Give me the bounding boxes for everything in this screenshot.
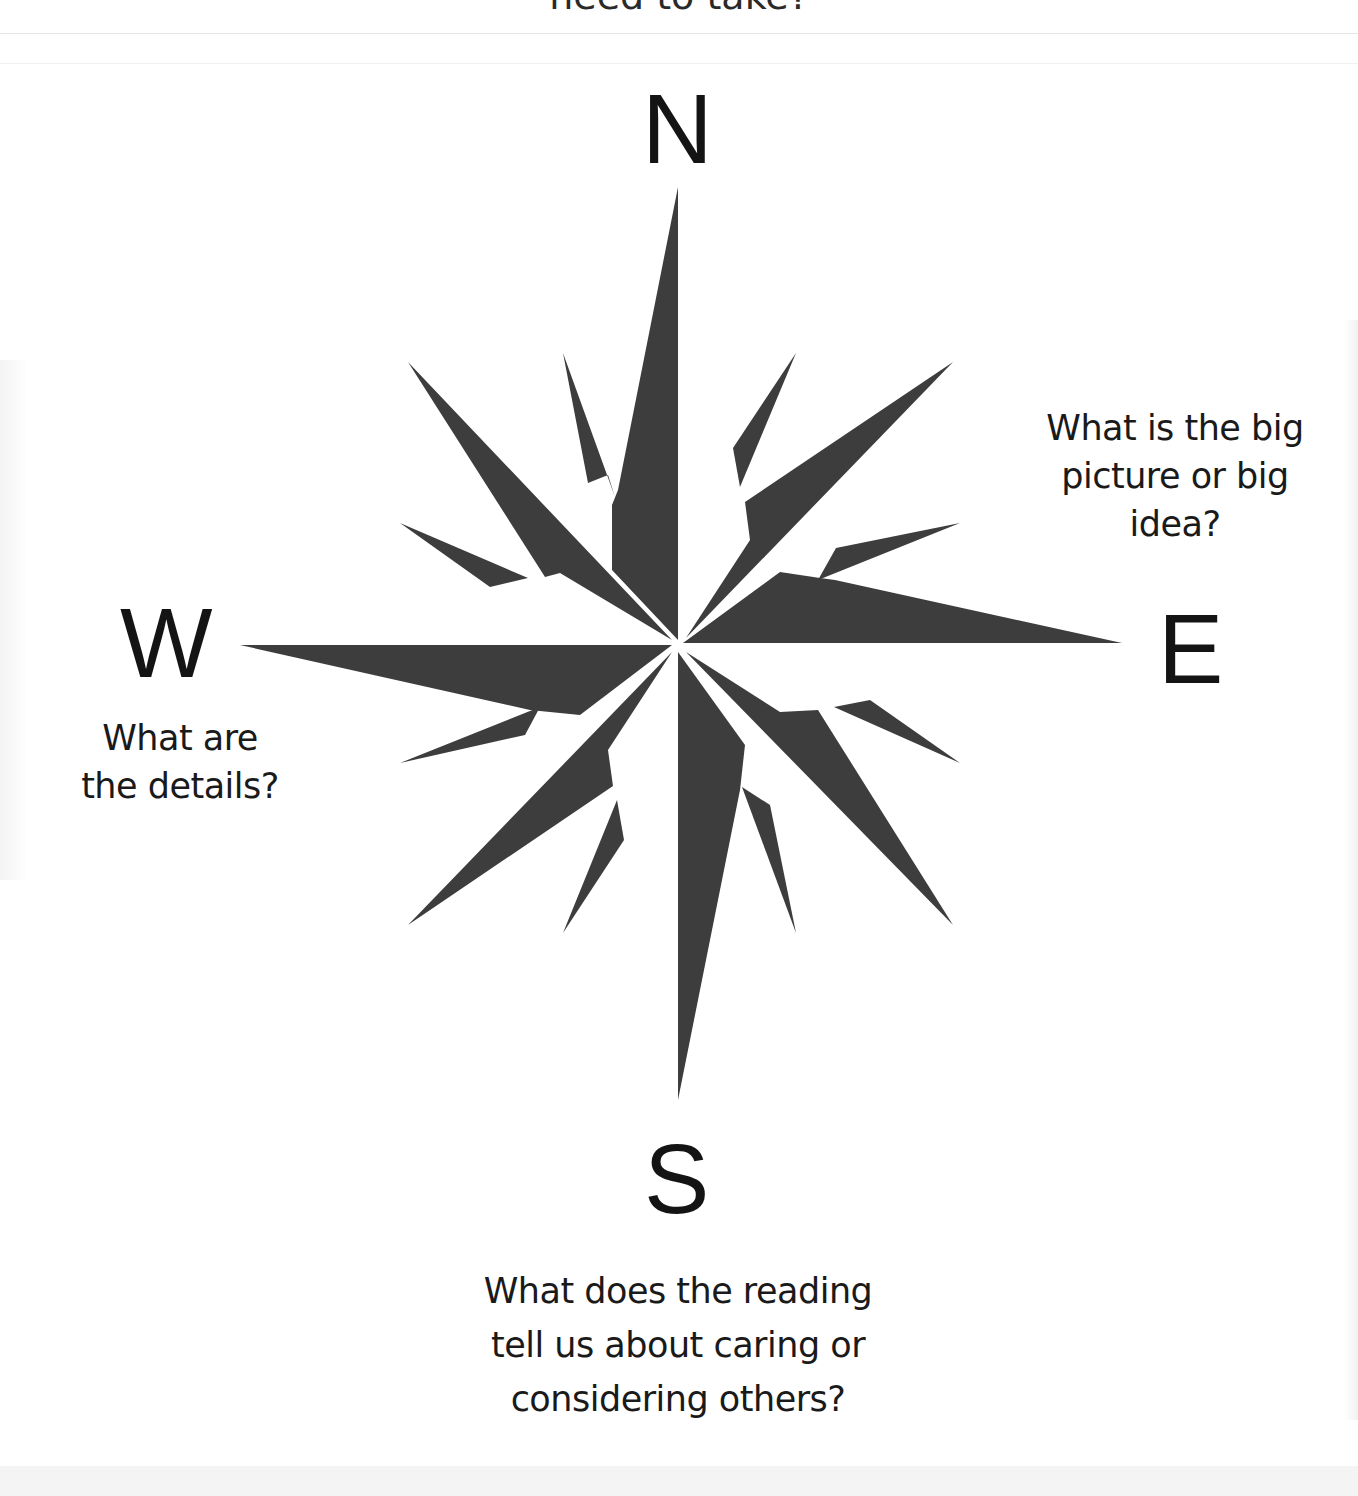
south-prompt: What does the reading tell us about cari… xyxy=(418,1264,938,1426)
east-blade xyxy=(683,572,1122,643)
east-label: E xyxy=(1158,600,1223,698)
west-blade xyxy=(240,645,672,715)
south-prompt-line: considering others? xyxy=(418,1372,938,1426)
east-prompt: What is the big picture or big idea? xyxy=(1020,404,1330,548)
feather-ssw xyxy=(563,800,624,933)
south-prompt-line: What does the reading xyxy=(418,1264,938,1318)
feather-wnw xyxy=(400,523,528,587)
feather-sse xyxy=(742,787,796,933)
east-prompt-line: picture or big xyxy=(1020,452,1330,500)
south-prompt-line: tell us about caring or xyxy=(418,1318,938,1372)
south-blade xyxy=(678,652,745,1100)
west-prompt-line: the details? xyxy=(50,762,310,810)
feather-ene xyxy=(818,523,960,580)
west-prompt-line: What are xyxy=(50,714,310,762)
west-label: W xyxy=(120,594,213,692)
compass-center-dot xyxy=(674,641,682,649)
west-prompt: What are the details? xyxy=(50,714,310,810)
feather-wsw xyxy=(400,707,540,763)
feather-ese xyxy=(834,700,960,763)
south-label: S xyxy=(644,1130,709,1228)
feather-nnw xyxy=(563,353,615,497)
north-blade xyxy=(612,187,678,640)
east-prompt-line: What is the big xyxy=(1020,404,1330,452)
east-prompt-line: idea? xyxy=(1020,500,1330,548)
north-label: N xyxy=(642,80,713,178)
feather-nne xyxy=(733,353,796,487)
